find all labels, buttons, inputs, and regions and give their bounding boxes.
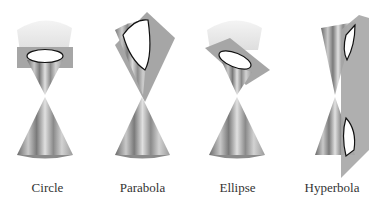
circle-section: [27, 50, 63, 63]
ellipse-cone-illustration: [190, 0, 285, 175]
cone-base: [17, 155, 73, 159]
label-parabola: Parabola: [95, 180, 190, 196]
lower-nappe: [115, 97, 170, 155]
panel-hyperbola: Hyperbola: [285, 0, 379, 208]
lower-nappe: [209, 97, 265, 155]
lower-nappe: [17, 97, 73, 155]
upper-nappe: [27, 60, 63, 95]
parabola-cone-illustration: [95, 0, 190, 175]
cone-base: [115, 155, 170, 159]
circle-cone-illustration: [0, 0, 95, 175]
cone-base: [209, 155, 265, 159]
panel-ellipse: Ellipse: [190, 0, 285, 208]
label-hyperbola: Hyperbola: [285, 180, 379, 196]
panel-parabola: Parabola: [95, 0, 190, 208]
label-circle: Circle: [0, 180, 95, 196]
panel-circle: Circle: [0, 0, 95, 208]
label-ellipse: Ellipse: [190, 180, 285, 196]
hyperbola-cone-illustration: [285, 0, 379, 180]
